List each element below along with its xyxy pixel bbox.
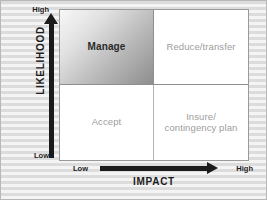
likelihood-low-tick-label: Low (19, 151, 49, 160)
quadrant-reduce-transfer: Reduce/transfer (154, 10, 248, 85)
risk-matrix-diagram: Manage Reduce/transfer Accept Insure/ co… (0, 0, 267, 200)
quadrant-label-accept: Accept (89, 117, 125, 128)
impact-axis-title: IMPACT (59, 176, 249, 187)
quadrant-label-insure-contingency: Insure/ contingency plan (162, 112, 241, 134)
likelihood-axis: High Low LIKELIHOOD (25, 9, 59, 161)
quadrant-accept: Accept (60, 85, 154, 160)
arrow-up-icon (44, 13, 58, 24)
quadrant-label-line-1: Insure/ (186, 111, 216, 122)
impact-low-tick-label: Low (73, 164, 88, 173)
quadrant-label-line-2: contingency plan (165, 122, 238, 133)
likelihood-axis-title: LIKELIHOOD (35, 0, 46, 124)
arrow-right-icon (207, 162, 218, 174)
impact-axis: Low High (59, 161, 249, 175)
quadrant-manage: Manage (60, 10, 154, 85)
quadrant-label-manage: Manage (85, 41, 129, 53)
quadrant-label-reduce-transfer: Reduce/transfer (163, 42, 238, 53)
matrix-plot-area: Manage Reduce/transfer Accept Insure/ co… (59, 9, 249, 161)
quadrant-insure-contingency: Insure/ contingency plan (154, 85, 248, 160)
likelihood-axis-arrow-shaft (49, 22, 54, 158)
impact-axis-arrow-shaft (100, 166, 209, 171)
impact-high-tick-label: High (236, 164, 253, 173)
